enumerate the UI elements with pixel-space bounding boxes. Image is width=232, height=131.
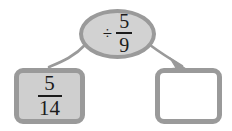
input-fraction: 5 14 <box>38 73 62 119</box>
operator-fraction: 5 9 <box>116 11 132 55</box>
operator-node-content: ÷ 5 9 <box>103 11 132 55</box>
operator-fraction-denominator: 9 <box>117 35 131 55</box>
operator-fraction-numerator: 5 <box>117 11 131 31</box>
division-sign-icon: ÷ <box>103 25 112 42</box>
operator-node[interactable]: ÷ 5 9 <box>79 9 156 59</box>
input-box[interactable]: 5 14 <box>14 68 85 124</box>
left-connector-line <box>49 44 86 67</box>
output-box[interactable] <box>155 68 222 124</box>
input-fraction-numerator: 5 <box>43 73 56 94</box>
diagram-canvas: ÷ 5 9 5 14 <box>0 0 232 131</box>
input-fraction-denominator: 14 <box>38 98 61 119</box>
